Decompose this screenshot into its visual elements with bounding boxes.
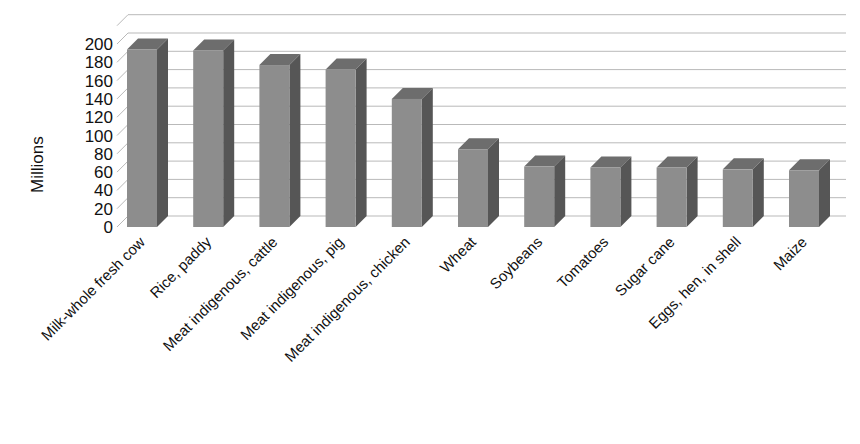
bar-front-face [657,168,687,227]
bar-front-face [723,169,753,227]
bar-front-face [590,168,620,227]
bar [259,54,300,227]
bar [127,38,168,227]
y-axis-title: Millions [28,136,47,193]
y-axis-tick-label: 60 [94,163,113,182]
y-axis-tick-label: 160 [85,72,113,91]
bar-side-face [422,88,433,227]
y-axis-tick-label: 140 [85,90,113,109]
bar-chart: 200180160140120100806040200 Millions Mil… [0,0,860,444]
bar-side-face [356,59,367,227]
chart-canvas: 200180160140120100806040200 Millions Mil… [0,0,860,444]
bar-front-face [524,167,554,227]
bar-side-face [687,157,698,227]
bar-front-face [392,99,422,227]
bar [723,158,764,227]
bar-side-face [819,159,830,227]
bar-front-face [193,50,223,227]
bar-side-face [223,39,234,227]
bar [193,39,234,227]
bar-side-face [620,157,631,227]
bar [789,159,830,227]
y-axis-tick-label: 120 [85,108,113,127]
y-axis-tick-label: 80 [94,145,113,164]
bar-front-face [127,49,157,227]
y-axis-title-group: Millions [28,136,47,193]
y-axis-tick-label: 0 [104,218,113,237]
bar-front-face [259,65,289,227]
bar-side-face [289,54,300,227]
bar-front-face [789,170,819,227]
bar [458,138,499,227]
bar [326,59,367,227]
bar-front-face [458,149,488,227]
y-axis-tick-label: 40 [94,181,113,200]
y-axis-tick-label: 180 [85,53,113,72]
bar-front-face [326,70,356,227]
bar-side-face [753,158,764,227]
y-axis-tick-label: 100 [85,127,113,146]
y-axis-tick-label: 200 [85,35,113,54]
bar-side-face [554,156,565,227]
bar [657,157,698,227]
y-axis-tick-label: 20 [94,200,113,219]
bar [524,156,565,227]
bar-side-face [157,38,168,227]
bar-side-face [488,138,499,227]
bar [392,88,433,227]
bar [590,157,631,227]
